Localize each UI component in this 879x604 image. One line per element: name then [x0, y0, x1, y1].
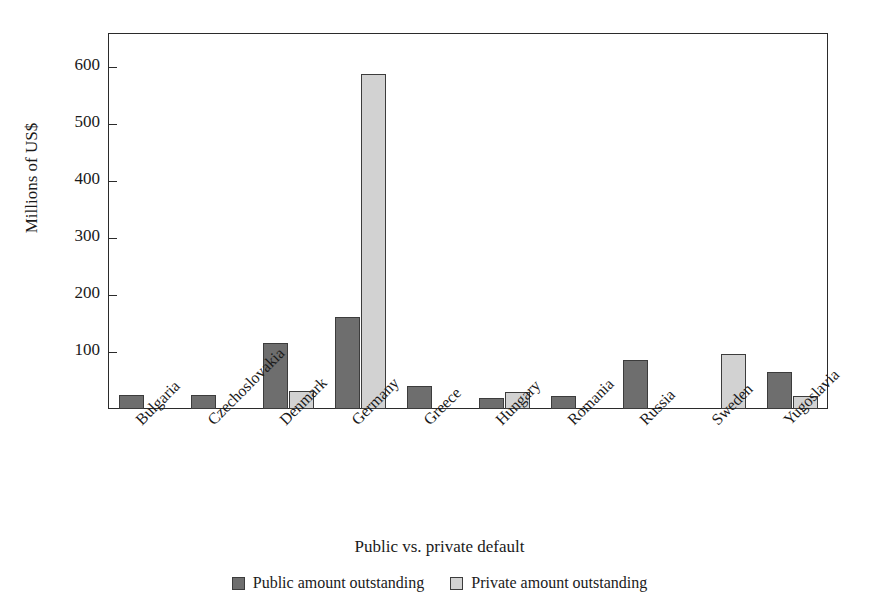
x-axis-label-denmark: Denmark: [276, 374, 331, 429]
x-axis-label-greece: Greece: [420, 384, 465, 429]
legend-entry-public: Public amount outstanding: [232, 574, 425, 592]
x-axis-label-sweden: Sweden: [708, 380, 757, 429]
x-axis-label-bulgaria: Bulgaria: [132, 377, 184, 429]
legend-label-private: Private amount outstanding: [471, 574, 647, 592]
legend-entry-private: Private amount outstanding: [450, 574, 647, 592]
x-axis-category-labels: BulgariaCzechoslovakiaDenmarkGermanyGree…: [0, 0, 879, 604]
bar-chart-figure: Millions of US$ 100200300400500600 Bulga…: [0, 0, 879, 604]
chart-legend: Public amount outstanding Private amount…: [0, 574, 879, 592]
x-axis-label-germany: Germany: [348, 374, 403, 429]
x-axis-label-hungary: Hungary: [492, 376, 544, 428]
x-axis-label-romania: Romania: [564, 375, 618, 429]
legend-label-public: Public amount outstanding: [253, 574, 425, 592]
legend-swatch-private-icon: [450, 577, 463, 590]
x-axis-label-yugoslavia: Yugoslavia: [780, 366, 843, 429]
legend-swatch-public-icon: [232, 577, 245, 590]
x-axis-title: Public vs. private default: [0, 537, 879, 557]
x-axis-label-russia: Russia: [636, 386, 679, 429]
